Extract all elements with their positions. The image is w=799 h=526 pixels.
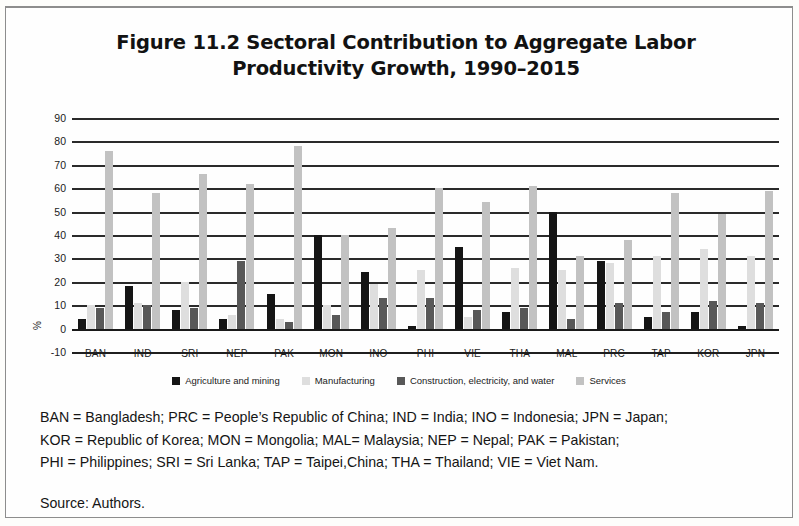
bar bbox=[567, 319, 575, 328]
bar bbox=[105, 151, 113, 329]
legend-item: Agriculture and mining bbox=[172, 375, 280, 386]
bar-group bbox=[407, 108, 445, 329]
x-tick-label: BAN bbox=[85, 348, 106, 359]
bar bbox=[199, 174, 207, 328]
plot-area bbox=[72, 108, 779, 378]
y-tick-label: 0 bbox=[36, 323, 66, 335]
bar bbox=[332, 315, 340, 329]
x-tick-label: TAP bbox=[652, 348, 671, 359]
y-tick-label: 20 bbox=[36, 276, 66, 288]
y-tick-label: 90 bbox=[36, 112, 66, 124]
x-tick-label: JPN bbox=[746, 348, 766, 359]
figure-title-line-2: Productivity Growth, 1990–2015 bbox=[66, 56, 746, 82]
bar bbox=[426, 298, 434, 328]
x-tick-label: PRC bbox=[603, 348, 625, 359]
bar bbox=[738, 326, 746, 328]
bar bbox=[765, 191, 773, 329]
x-tick-label: NEP bbox=[226, 348, 247, 359]
y-tick-label: 80 bbox=[36, 135, 66, 147]
legend-swatch-icon bbox=[172, 377, 180, 385]
x-tick-label: MAL bbox=[556, 348, 577, 359]
x-tick-label: MON bbox=[319, 348, 343, 359]
bar-group bbox=[501, 108, 539, 329]
bar-group bbox=[689, 108, 727, 329]
bar bbox=[267, 294, 275, 329]
legend-item: Services bbox=[576, 375, 625, 386]
bar bbox=[644, 317, 652, 329]
x-tick-label: IND bbox=[134, 348, 152, 359]
legend-label: Services bbox=[589, 375, 625, 386]
bar bbox=[473, 310, 481, 329]
bar bbox=[314, 235, 322, 329]
bar bbox=[143, 305, 151, 328]
bar-group bbox=[454, 108, 492, 329]
bar bbox=[172, 310, 180, 329]
bar bbox=[756, 303, 764, 329]
bar bbox=[662, 312, 670, 328]
legend-swatch-icon bbox=[397, 377, 405, 385]
y-tick-label: 30 bbox=[36, 252, 66, 264]
bar bbox=[78, 319, 86, 328]
bar bbox=[718, 214, 726, 329]
x-tick-label: SRI bbox=[181, 348, 198, 359]
figure-page: Figure 11.2 Sectoral Contribution to Agg… bbox=[0, 0, 799, 526]
bar bbox=[464, 317, 472, 329]
bar-group bbox=[595, 108, 633, 329]
bar bbox=[228, 315, 236, 329]
legend-swatch-icon bbox=[302, 377, 310, 385]
bar bbox=[435, 188, 443, 328]
bar-groups bbox=[72, 108, 779, 378]
x-axis-ticks: BANINDSRINEPPAKMONINOPHIVIETHAMALPRCTAPK… bbox=[72, 348, 779, 364]
bar bbox=[529, 186, 537, 329]
bar bbox=[379, 298, 387, 328]
x-tick-label: KOR bbox=[697, 348, 719, 359]
bar bbox=[671, 193, 679, 329]
bar bbox=[511, 268, 519, 329]
bar bbox=[96, 308, 104, 329]
bar bbox=[606, 263, 614, 329]
bar bbox=[361, 272, 369, 328]
y-tick-label: 50 bbox=[36, 206, 66, 218]
y-tick-label: 70 bbox=[36, 159, 66, 171]
bar bbox=[482, 202, 490, 328]
bar bbox=[323, 305, 331, 328]
bar-group bbox=[171, 108, 209, 329]
bar-group bbox=[736, 108, 774, 329]
bar bbox=[152, 193, 160, 329]
bar-group bbox=[312, 108, 350, 329]
bar bbox=[294, 146, 302, 329]
bar bbox=[87, 305, 95, 328]
bar bbox=[615, 303, 623, 329]
x-tick-label: INO bbox=[369, 348, 387, 359]
bar bbox=[691, 312, 699, 328]
bar bbox=[285, 322, 293, 329]
bar-group bbox=[124, 108, 162, 329]
bar bbox=[576, 256, 584, 329]
y-axis-ticks: 9080706050403020100-10 bbox=[28, 108, 66, 378]
bar-group bbox=[265, 108, 303, 329]
bar bbox=[653, 256, 661, 329]
bar bbox=[370, 284, 378, 328]
bar-group bbox=[359, 108, 397, 329]
note-line-1: BAN = Bangladesh; PRC = People’s Republi… bbox=[40, 406, 766, 429]
y-tick-label: 10 bbox=[36, 299, 66, 311]
note-line-3: PHI = Philippines; SRI = Sri Lanka; TAP … bbox=[40, 451, 766, 474]
legend-swatch-icon bbox=[576, 377, 584, 385]
bar bbox=[237, 261, 245, 329]
bar bbox=[134, 303, 142, 329]
x-tick-label: THA bbox=[509, 348, 530, 359]
legend-label: Construction, electricity, and water bbox=[410, 375, 555, 386]
bar bbox=[125, 286, 133, 328]
bar bbox=[558, 270, 566, 329]
bar bbox=[709, 301, 717, 329]
y-tick-label: -10 bbox=[36, 346, 66, 358]
x-tick-label: PHI bbox=[417, 348, 434, 359]
bar bbox=[181, 282, 189, 329]
y-tick-label: 40 bbox=[36, 229, 66, 241]
bar bbox=[408, 326, 416, 328]
bar-group bbox=[642, 108, 680, 329]
legend-label: Agriculture and mining bbox=[185, 375, 280, 386]
bar-chart: % 9080706050403020100-10 BANINDSRINEPPAK… bbox=[28, 108, 783, 378]
bar bbox=[417, 270, 425, 329]
bar bbox=[624, 240, 632, 329]
